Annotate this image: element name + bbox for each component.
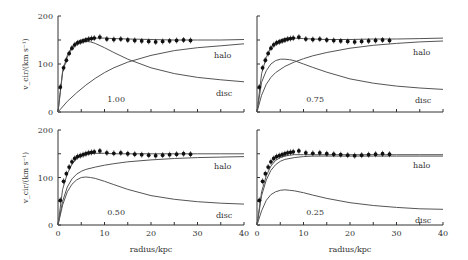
y-axis-label: v_cir/(km s⁻¹): [21, 38, 30, 90]
panel-ratio-label: 0.50: [107, 208, 125, 217]
halo-label: halo: [413, 48, 430, 57]
y-tick-label: 0: [48, 108, 53, 117]
y-tick-label: 200: [38, 12, 53, 21]
panel-2: halodisc0.75: [257, 16, 443, 112]
y-tick-label: 100: [38, 174, 53, 183]
panel-4: 010203040radius/kpchalodisc0.25: [254, 130, 448, 254]
y-axis-label: v_cir/(km s⁻¹): [21, 152, 30, 204]
x-tick-label: 30: [192, 229, 202, 238]
x-tick-label: 10: [99, 229, 109, 238]
x-tick-label: 40: [438, 229, 448, 238]
x-tick-label: 0: [254, 229, 259, 238]
disc-label: disc: [415, 96, 432, 105]
x-tick-label: 10: [298, 229, 308, 238]
x-tick-label: 40: [239, 229, 249, 238]
x-tick-label: 20: [345, 229, 355, 238]
disc-label: disc: [216, 89, 233, 98]
x-axis-label: radius/kpc: [130, 245, 173, 254]
panel-ratio-label: 0.75: [306, 95, 324, 104]
halo-label: halo: [214, 162, 231, 171]
x-tick-label: 20: [146, 229, 156, 238]
panel-ratio-label: 1.00: [107, 95, 125, 104]
x-tick-label: 0: [55, 229, 60, 238]
panel-1: 0100200v_cir/(km s⁻¹)halodisc1.00: [21, 12, 244, 117]
disc-label: disc: [216, 211, 233, 220]
halo-label: halo: [214, 51, 231, 60]
x-tick-label: 30: [391, 229, 401, 238]
rotation-curve-figure: 0100200v_cir/(km s⁻¹)halodisc1.00halodis…: [0, 0, 468, 260]
y-tick-label: 100: [38, 60, 53, 69]
halo-label: halo: [413, 161, 430, 170]
y-tick-label: 200: [38, 126, 53, 135]
disc-label: disc: [415, 216, 432, 225]
y-tick-label: 0: [48, 221, 53, 230]
panel-3: 0100200v_cir/(km s⁻¹)010203040radius/kpc…: [21, 126, 249, 254]
x-axis-label: radius/kpc: [329, 245, 372, 254]
total-model-curve: [58, 38, 244, 112]
panel-ratio-label: 0.25: [306, 208, 324, 217]
